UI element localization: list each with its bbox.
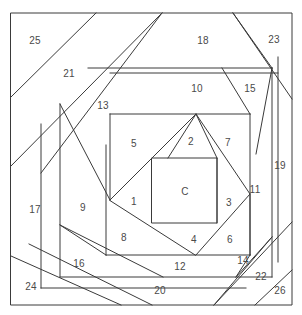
label-piece-14: 14 xyxy=(237,256,249,266)
label-piece-1: 1 xyxy=(131,197,137,207)
label-piece-17: 17 xyxy=(29,205,41,215)
label-piece-16: 16 xyxy=(73,259,85,269)
label-piece-5: 5 xyxy=(131,139,137,149)
quilt-block-diagram: C 1 2 3 4 5 6 7 8 9 10 11 12 13 14 15 16… xyxy=(0,0,302,315)
label-piece-15: 15 xyxy=(244,84,256,94)
label-piece-8: 8 xyxy=(121,233,127,243)
label-piece-19: 19 xyxy=(274,161,286,171)
label-piece-6: 6 xyxy=(227,235,233,245)
piece-labels: C 1 2 3 4 5 6 7 8 9 10 11 12 13 14 15 16… xyxy=(0,0,302,315)
label-piece-20: 20 xyxy=(154,286,166,296)
label-piece-18: 18 xyxy=(197,36,209,46)
label-piece-13: 13 xyxy=(97,101,109,111)
label-piece-4: 4 xyxy=(191,235,197,245)
label-piece-12: 12 xyxy=(174,262,186,272)
label-piece-9: 9 xyxy=(80,203,86,213)
label-piece-2: 2 xyxy=(188,137,194,147)
label-piece-22: 22 xyxy=(255,272,267,282)
label-piece-24: 24 xyxy=(25,282,37,292)
label-piece-21: 21 xyxy=(63,69,75,79)
label-piece-23: 23 xyxy=(268,35,280,45)
label-piece-10: 10 xyxy=(191,84,203,94)
label-piece-3: 3 xyxy=(226,198,232,208)
label-piece-25: 25 xyxy=(29,36,41,46)
label-piece-26: 26 xyxy=(274,286,286,296)
label-center: C xyxy=(181,187,188,197)
label-piece-7: 7 xyxy=(225,138,231,148)
label-piece-11: 11 xyxy=(250,185,261,195)
